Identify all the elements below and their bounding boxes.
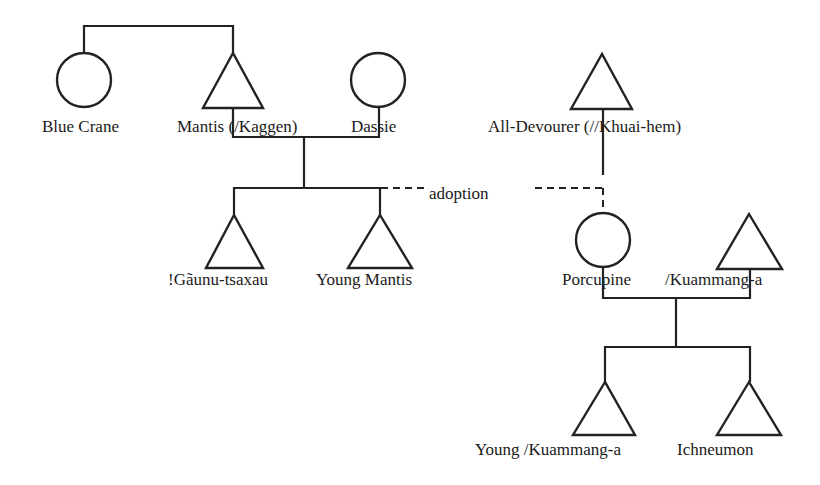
person-young-kuammang-a: Young /Kuammang-a xyxy=(475,382,635,459)
person-all-devourer: All-Devourer (//Khuai-hem) xyxy=(488,54,681,136)
sibling-line-blue-crane-mantis xyxy=(84,26,233,53)
male-triangle-icon xyxy=(348,215,412,268)
male-triangle-icon xyxy=(573,382,635,435)
label-kuammang-a: /Kuammang-a xyxy=(665,270,763,289)
male-triangle-icon xyxy=(717,214,782,269)
label-gaunu-tsaxau: !Gãunu-tsaxau xyxy=(168,270,269,289)
person-young-mantis: Young Mantis xyxy=(316,215,412,289)
label-ichneumon: Ichneumon xyxy=(677,440,754,459)
male-triangle-icon xyxy=(717,382,781,435)
female-circle-icon xyxy=(576,213,630,267)
sibling-line-kuammang-children xyxy=(605,347,750,382)
adoption-label: adoption xyxy=(429,184,489,203)
person-ichneumon: Ichneumon xyxy=(677,382,781,459)
label-mantis: Mantis (/Kaggen) xyxy=(177,117,297,136)
person-gaunu-tsaxau: !Gãunu-tsaxau xyxy=(168,215,269,289)
person-mantis: Mantis (/Kaggen) xyxy=(177,53,297,136)
label-blue-crane: Blue Crane xyxy=(42,117,119,136)
sibling-line-mantis-children xyxy=(234,188,380,215)
person-porcupine: Porcupine xyxy=(562,213,631,289)
label-young-kuammang-a: Young /Kuammang-a xyxy=(475,440,622,459)
person-kuammang-a: /Kuammang-a xyxy=(665,214,782,289)
male-triangle-icon xyxy=(203,53,263,108)
kinship-diagram: Blue Crane Mantis (/Kaggen) Dassie !Gãun… xyxy=(0,0,820,485)
female-circle-icon xyxy=(351,53,405,107)
male-triangle-icon xyxy=(206,215,263,268)
male-triangle-icon xyxy=(571,54,632,109)
label-porcupine: Porcupine xyxy=(562,270,631,289)
label-all-devourer: All-Devourer (//Khuai-hem) xyxy=(488,117,681,136)
label-young-mantis: Young Mantis xyxy=(316,270,412,289)
label-dassie: Dassie xyxy=(351,117,396,136)
person-blue-crane: Blue Crane xyxy=(42,53,119,136)
female-circle-icon xyxy=(57,53,111,107)
